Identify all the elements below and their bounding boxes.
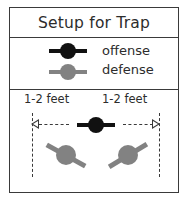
play-diagram: 1-2 feet 1-2 feet (10, 89, 178, 192)
player-body-icon (56, 145, 76, 165)
legend: offense defense (10, 37, 178, 89)
spacing-label-right: 1-2 feet (102, 92, 147, 106)
legend-label-offense: offense (102, 43, 150, 58)
player-body-icon (88, 117, 104, 133)
player-body-icon (118, 145, 138, 165)
arrow-right-icon (152, 119, 160, 129)
spacing-label-left: 1-2 feet (24, 92, 69, 106)
title-row: Setup for Trap (10, 8, 178, 37)
page-title: Setup for Trap (38, 14, 150, 32)
legend-label-defense: defense (102, 62, 154, 77)
dashed-measure-line-right (123, 124, 153, 125)
dashed-measure-line-left (39, 124, 69, 125)
player-body-icon (60, 64, 76, 80)
setup-for-trap-diagram-card: Setup for Trap offense defense 1-2 feet … (9, 7, 179, 193)
arrow-left-icon (31, 119, 39, 129)
player-body-icon (60, 43, 76, 59)
